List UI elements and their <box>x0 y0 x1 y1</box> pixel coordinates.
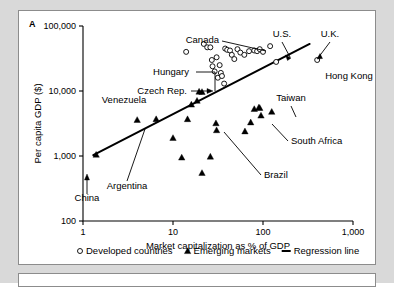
scatter-plot-svg: 1001,00010,000100,0001101001,000Market c… <box>19 11 377 266</box>
arrowhead-czech <box>207 89 213 94</box>
point-emerging-2 <box>153 116 159 122</box>
point-developed-4 <box>210 64 215 69</box>
x-tick-label-2: 100 <box>255 227 270 237</box>
legend-item-0: Developed countries <box>78 245 173 256</box>
point-emerging-5 <box>184 116 190 122</box>
point-emerging-14 <box>242 128 248 134</box>
label-south-africa: South Africa <box>291 135 343 146</box>
leader-brazil <box>224 132 261 175</box>
x-tick-label-1: 10 <box>168 227 178 237</box>
point-emerging-19 <box>258 112 264 118</box>
label-taiwan: Taiwan <box>276 92 306 103</box>
point-developed-26 <box>268 44 273 49</box>
point-developed-11 <box>219 74 224 79</box>
point-developed-7 <box>214 55 219 60</box>
point-emerging-20 <box>269 109 275 115</box>
legend-label-2: Regression line <box>294 245 359 256</box>
point-emerging-13 <box>213 127 219 133</box>
x-tick-label-0: 1 <box>80 227 85 237</box>
label-hong-kong: Hong Kong <box>325 70 373 81</box>
legend-item-2: Regression line <box>282 245 359 256</box>
x-tick-label-3: 1,000 <box>342 227 365 237</box>
annotation-labels-layer: CanadaU.S.U.K.Hong KongHungaryCzech Rep.… <box>75 28 373 203</box>
label-u-s-: U.S. <box>273 28 291 39</box>
data-points-layer <box>93 41 320 175</box>
leader-south-africa <box>272 124 288 141</box>
y-tick-label-2: 10,000 <box>48 86 76 96</box>
label-hungary: Hungary <box>153 66 189 77</box>
point-developed-0 <box>184 49 189 54</box>
y-axis-title: Per capita GDP ($) <box>32 83 43 163</box>
leader-hungary <box>196 72 215 91</box>
point-emerging-1 <box>134 117 140 123</box>
point-emerging-4 <box>179 154 185 160</box>
y-tick-label-1: 1,000 <box>53 151 76 161</box>
point-emerging-3 <box>170 135 176 141</box>
point-developed-5 <box>209 57 214 62</box>
legend-layer: Developed countriesEmerging marketsRegre… <box>78 245 360 256</box>
point-emerging-10 <box>199 170 205 176</box>
point-emerging-15 <box>247 119 253 125</box>
chart-panel-a: A 1001,00010,000100,0001101001,000Market… <box>18 10 376 265</box>
point-developed-9 <box>217 63 222 68</box>
point-developed-27 <box>274 59 279 64</box>
arrowhead-uk <box>317 54 323 60</box>
point-developed-12 <box>222 81 227 86</box>
annotation-leaders-layer <box>85 41 331 194</box>
legend-marker-open-circle-icon <box>78 249 83 254</box>
label-china: China <box>75 192 101 203</box>
arrowhead-china <box>85 174 90 180</box>
label-u-k-: U.K. <box>321 28 339 39</box>
legend-label-1: Emerging markets <box>194 245 271 256</box>
label-venezuela: Venezuela <box>102 94 147 105</box>
point-developed-21 <box>247 49 252 54</box>
leader-u-s- <box>282 42 290 57</box>
point-emerging-12 <box>213 120 219 126</box>
adjacent-panel <box>18 273 376 287</box>
point-developed-17 <box>232 57 237 62</box>
point-developed-20 <box>242 52 247 57</box>
point-emerging-11 <box>207 153 213 159</box>
legend-label-0: Developed countries <box>86 245 173 256</box>
leader-taiwan <box>291 106 296 117</box>
label-argentina: Argentina <box>107 180 148 191</box>
point-developed-3 <box>208 45 213 50</box>
label-brazil: Brazil <box>264 169 288 180</box>
y-tick-label-3: 100,000 <box>43 21 76 31</box>
y-tick-label-0: 100 <box>61 216 76 226</box>
legend-item-1: Emerging markets <box>184 245 271 256</box>
label-canada: Canada <box>186 34 220 45</box>
